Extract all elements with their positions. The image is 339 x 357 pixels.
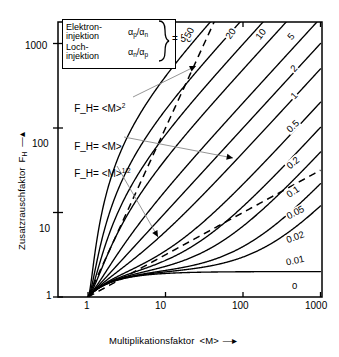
- y-tick-1: 1: [46, 291, 52, 302]
- legend-hole-label: Loch- injektion: [66, 43, 128, 61]
- annotation-m-squared-sup: 2: [122, 102, 126, 109]
- legend-row-electron: Elektron- injektion αp/αn: [66, 22, 172, 42]
- y-axis-title-text: Zusatzrauschfaktor: [16, 167, 27, 250]
- y-tick-10: 10: [39, 224, 50, 235]
- alpha-n-sub: n: [145, 31, 149, 38]
- curve-k-0: [88, 272, 321, 297]
- y-tick-1000: 1000: [25, 41, 47, 52]
- x-axis-title: Multiplikationsfaktor<M>—▸: [98, 326, 238, 356]
- x-tick-1: 1: [84, 301, 90, 312]
- x-axis-title-text: Multiplikationsfaktor: [109, 335, 195, 346]
- annotation-m-squared: F_H= <M>2: [63, 92, 125, 125]
- x-tick-100: 100: [232, 301, 249, 312]
- legend-electron-line2: injektion: [66, 32, 128, 41]
- y-axis-title: ZusatzrauschfaktorFH—▴: [16, 132, 28, 250]
- leader-m-sqrt-arrow: [152, 230, 158, 237]
- y-axis-title-var: F: [16, 157, 27, 163]
- annotation-m-sqrt-text: F_H= <M>: [74, 168, 122, 179]
- x-tick-1000: 1000: [305, 301, 327, 312]
- legend-brace: [158, 20, 170, 62]
- chart-root: 1000 100 10 1 1 10 100 1000 Multiplikati…: [0, 0, 339, 357]
- annotation-m-linear-text: F_H= <M>: [74, 141, 122, 152]
- annotation-m-sqrt: F_H= <M>1/2: [63, 157, 131, 190]
- alpha-p-sub-2: p: [145, 51, 149, 58]
- leader-m-linear-arrow: [226, 154, 233, 160]
- annotation-m-sqrt-sup: 1/2: [122, 167, 131, 174]
- y-tick-100: 100: [32, 139, 49, 150]
- legend-electron-label: Elektron- injektion: [66, 23, 128, 41]
- x-axis-title-var: <M>: [200, 335, 219, 346]
- x-tick-10: 10: [155, 301, 166, 312]
- annotation-m-squared-text: F_H= <M>: [74, 103, 122, 114]
- x-axis-arrow: —▸: [223, 335, 238, 346]
- y-axis-arrow: —▴: [16, 132, 27, 147]
- curve-label-0: 0: [291, 281, 298, 291]
- legend-hole-line2: injektion: [66, 52, 128, 61]
- legend-row-hole: Loch- injektion αn/αp: [66, 42, 172, 62]
- y-axis-title-var-sub: H: [21, 152, 28, 157]
- leader-m-squared: [133, 66, 196, 97]
